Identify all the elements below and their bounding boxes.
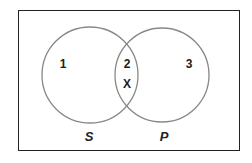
circle-p xyxy=(115,28,209,122)
set-s-label: S xyxy=(85,130,94,143)
venn-diagram: 1 2 3 X S P xyxy=(0,0,252,163)
x-mark: X xyxy=(123,78,131,90)
circle-s xyxy=(42,27,138,123)
region-1-label: 1 xyxy=(60,58,67,70)
region-3-label: 3 xyxy=(186,58,193,70)
region-2-label: 2 xyxy=(124,58,131,70)
set-p-label: P xyxy=(160,130,169,143)
